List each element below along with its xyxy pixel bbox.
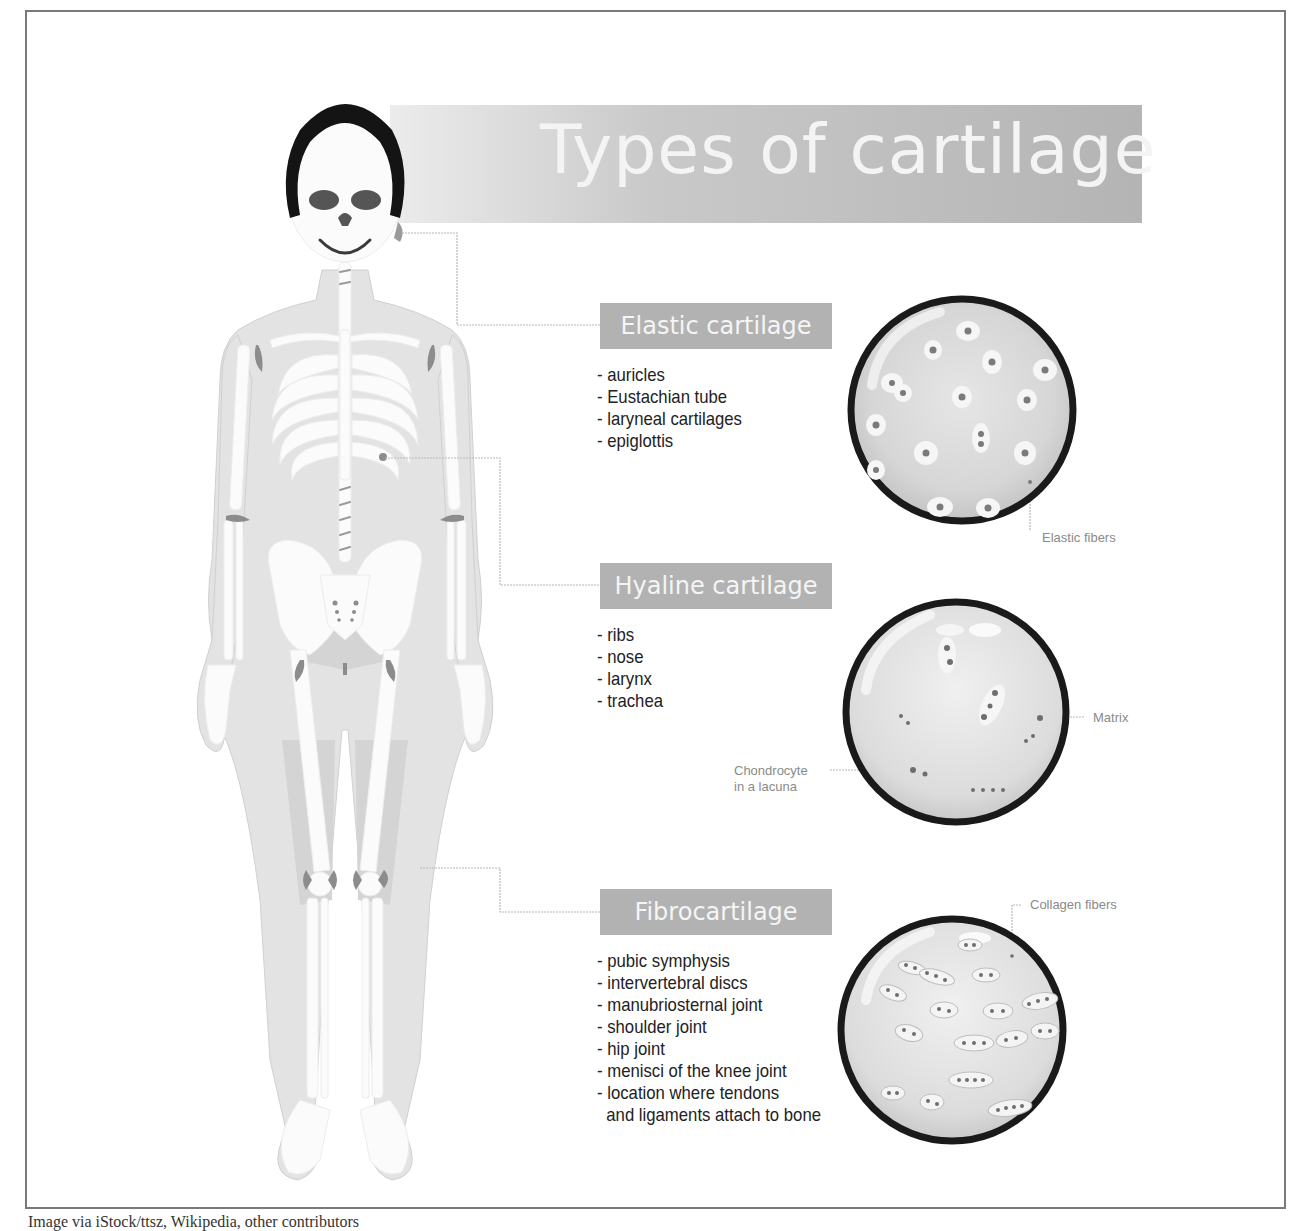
- list-item: - shoulder joint: [597, 1016, 821, 1038]
- fibrocartilage-locations-list: - pubic symphysis - intervertebral discs…: [597, 950, 821, 1126]
- list-item: - manubriosternal joint: [597, 994, 821, 1016]
- collagen-fibers-annotation: Collagen fibers: [1030, 897, 1117, 913]
- image-caption: Image via iStock/ttsz, Wikipedia, other …: [28, 1213, 359, 1231]
- fibrocartilage-label-text: Fibrocartilage: [634, 898, 797, 926]
- list-item: - epiglottis: [597, 430, 742, 452]
- fibrocartilage-label: Fibrocartilage: [600, 889, 832, 935]
- elastic-cartilage-micrograph-icon: [851, 299, 1073, 521]
- page-title: Types of cartilage: [540, 110, 1157, 189]
- chondrocyte-annotation-line1: Chondrocyte: [734, 763, 808, 779]
- list-item: - location where tendons: [597, 1082, 821, 1104]
- hyaline-cartilage-micrograph-icon: [846, 602, 1066, 822]
- hyaline-cartilage-locations-list: - ribs - nose - larynx - trachea: [597, 624, 663, 712]
- list-item: - menisci of the knee joint: [597, 1060, 821, 1082]
- list-item: - trachea: [597, 690, 663, 712]
- hyaline-cartilage-label-text: Hyaline cartilage: [614, 572, 817, 600]
- matrix-annotation: Matrix: [1093, 710, 1128, 726]
- list-item: - laryneal cartilages: [597, 408, 742, 430]
- elastic-cartilage-label: Elastic cartilage: [600, 303, 832, 349]
- list-item: - pubic symphysis: [597, 950, 821, 972]
- list-item: - larynx: [597, 668, 663, 690]
- elastic-cartilage-locations-list: - auricles - Eustachian tube - laryneal …: [597, 364, 742, 452]
- fibrocartilage-micrograph-icon: [841, 919, 1063, 1141]
- list-item: - intervertebral discs: [597, 972, 821, 994]
- list-item: - auricles: [597, 364, 742, 386]
- elastic-fibers-annotation: Elastic fibers: [1042, 530, 1116, 546]
- skeleton-figure-icon: [197, 104, 493, 1180]
- list-item: - nose: [597, 646, 663, 668]
- chondrocyte-annotation-line2: in a lacuna: [734, 779, 797, 795]
- list-item: and ligaments attach to bone: [597, 1104, 821, 1126]
- list-item: - hip joint: [597, 1038, 821, 1060]
- list-item: - ribs: [597, 624, 663, 646]
- list-item: - Eustachian tube: [597, 386, 742, 408]
- hyaline-cartilage-label: Hyaline cartilage: [600, 563, 832, 609]
- elastic-cartilage-label-text: Elastic cartilage: [620, 312, 811, 340]
